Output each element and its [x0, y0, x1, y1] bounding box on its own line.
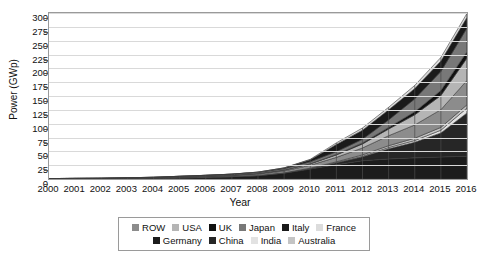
legend-swatch-icon: [132, 224, 139, 231]
legend-item-japan[interactable]: Japan: [239, 223, 275, 232]
legend-swatch-icon: [282, 224, 289, 231]
legend-row-primary: ROWUSAUKJapanItalyFrance: [123, 221, 365, 234]
legend-label: France: [326, 223, 356, 232]
legend-item-uk[interactable]: UK: [209, 223, 232, 232]
y-axis-tick-label: 100: [4, 124, 48, 133]
legend-swatch-icon: [153, 237, 160, 244]
y-axis-tick-label: 300: [4, 13, 48, 22]
y-axis-tick-label: 175: [4, 82, 48, 91]
legend-swatch-icon: [251, 237, 258, 244]
legend-item-usa[interactable]: USA: [172, 223, 202, 232]
y-axis-tick-label: 75: [4, 138, 48, 147]
y-axis: 0255075100125150175200225250275300: [0, 12, 48, 180]
gridline: [49, 110, 467, 111]
legend-label: Japan: [249, 223, 275, 232]
legend-item-india[interactable]: India: [251, 236, 282, 245]
legend-label: ROW: [142, 223, 165, 232]
y-axis-tick-label: 200: [4, 68, 48, 77]
legend-label: China: [219, 236, 244, 245]
gridline: [49, 13, 467, 14]
y-axis-tick-label: 50: [4, 151, 48, 160]
gridline: [49, 41, 467, 42]
legend-item-row[interactable]: ROW: [132, 223, 165, 232]
legend-row-secondary: GermanyChinaIndiaAustralia: [123, 234, 365, 247]
gridline: [49, 124, 467, 125]
x-axis-title: Year: [0, 196, 480, 208]
y-axis-tick-label: 250: [4, 41, 48, 50]
legend-label: UK: [219, 223, 232, 232]
y-axis-tick-label: 25: [4, 165, 48, 174]
gridline: [49, 96, 467, 97]
y-axis-tick-label: 275: [4, 27, 48, 36]
legend-item-italy[interactable]: Italy: [282, 223, 309, 232]
gridline: [49, 138, 467, 139]
legend-label: Australia: [298, 236, 335, 245]
legend-item-australia[interactable]: Australia: [288, 236, 335, 245]
y-axis-tick-label: 150: [4, 96, 48, 105]
legend-label: India: [261, 236, 282, 245]
chart-figure: Power (GWp) 0255075100125150175200225250…: [0, 0, 480, 260]
x-axis: 2000200120022003200420052006200720082009…: [48, 181, 468, 197]
gridline: [49, 27, 467, 28]
legend-label: Germany: [163, 236, 202, 245]
legend-swatch-icon: [209, 237, 216, 244]
legend-label: USA: [182, 223, 202, 232]
gridline: [49, 68, 467, 69]
legend-item-china[interactable]: China: [209, 236, 244, 245]
gridline: [49, 82, 467, 83]
gridline: [49, 151, 467, 152]
legend-item-germany[interactable]: Germany: [153, 236, 202, 245]
legend-swatch-icon: [209, 224, 216, 231]
legend-swatch-icon: [288, 237, 295, 244]
plot-area: [48, 12, 468, 180]
x-axis-tick-label: 2016: [446, 183, 480, 194]
legend-swatch-icon: [172, 224, 179, 231]
legend-label: Italy: [292, 223, 309, 232]
legend-swatch-icon: [239, 224, 246, 231]
legend-item-france[interactable]: France: [316, 223, 356, 232]
chart-legend: ROWUSAUKJapanItalyFrance GermanyChinaInd…: [118, 217, 370, 251]
gridline: [49, 165, 467, 166]
legend-swatch-icon: [316, 224, 323, 231]
y-axis-tick-label: 125: [4, 110, 48, 119]
gridline: [49, 55, 467, 56]
y-axis-tick-label: 225: [4, 55, 48, 64]
